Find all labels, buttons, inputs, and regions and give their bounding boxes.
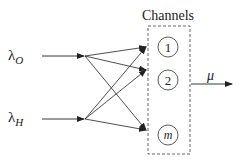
svg-text:2: 2 — [165, 73, 172, 88]
channel-m: m — [158, 125, 178, 145]
svg-text:1: 1 — [165, 40, 172, 55]
svg-text:m: m — [164, 128, 173, 142]
channels-title: Channels — [142, 8, 194, 23]
channel-1: 1 — [158, 37, 178, 57]
channel-2: 2 — [158, 70, 178, 90]
routing-arrows — [85, 47, 146, 130]
input-label-h: λH — [8, 109, 24, 128]
input-label-o: λO — [8, 47, 23, 66]
output-label: μ — [206, 68, 214, 83]
channel-diagram: λO λH Channels 1 2 m μ — [0, 0, 243, 164]
